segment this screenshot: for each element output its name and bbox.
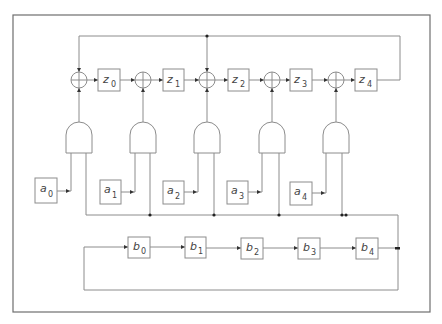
main-row-wires (87, 78, 355, 82)
a-input-4: a 4 (290, 182, 312, 205)
svg-text:3: 3 (302, 80, 307, 89)
svg-text:b: b (246, 241, 253, 254)
xor-gate-0 (71, 72, 87, 88)
svg-text:3: 3 (239, 192, 244, 201)
svg-text:4: 4 (302, 193, 307, 202)
svg-text:4: 4 (367, 80, 372, 89)
xor-gate-4 (328, 72, 344, 88)
a-input-3: a 3 (227, 181, 248, 204)
svg-text:z: z (358, 73, 365, 86)
xor-gate-2 (199, 72, 215, 88)
b-register-4: b 4 (356, 238, 378, 259)
svg-text:1: 1 (112, 191, 117, 200)
b-register-3: b 3 (298, 238, 320, 259)
xor-gate-1 (135, 72, 151, 88)
a-input-1: a 1 (100, 180, 121, 204)
svg-text:a: a (231, 184, 238, 197)
svg-text:2: 2 (240, 80, 245, 89)
svg-text:a: a (294, 185, 301, 198)
xor-gate-3 (264, 72, 280, 88)
svg-text:b: b (361, 241, 368, 254)
svg-text:3: 3 (311, 248, 316, 257)
svg-text:z: z (293, 73, 300, 86)
b-register-0: b 0 (128, 237, 150, 258)
svg-text:b: b (133, 240, 140, 253)
svg-text:a: a (40, 182, 47, 195)
svg-text:0: 0 (141, 247, 146, 256)
outer-frame (13, 15, 430, 312)
and-gate-3 (259, 122, 285, 153)
z-register-1: z 1 (163, 69, 184, 91)
svg-text:z: z (231, 73, 238, 86)
svg-text:2: 2 (175, 192, 180, 201)
b-register-2: b 2 (241, 238, 263, 259)
svg-text:z: z (102, 73, 109, 86)
svg-text:a: a (104, 183, 111, 196)
svg-text:1: 1 (198, 247, 203, 256)
z-register-2: z 2 (228, 69, 249, 91)
z-register-4: z 4 (355, 69, 377, 91)
svg-text:0: 0 (111, 80, 116, 89)
svg-text:b: b (303, 241, 310, 254)
svg-text:4: 4 (369, 248, 374, 257)
z-register-3: z 3 (290, 69, 312, 91)
z-register-0: z 0 (98, 69, 120, 91)
svg-text:a: a (167, 184, 174, 197)
svg-text:1: 1 (175, 80, 180, 89)
and-gate-4 (323, 122, 349, 153)
a-input-2: a 2 (163, 181, 184, 204)
and-to-xor-wires (77, 88, 338, 122)
b-register-1: b 1 (185, 237, 206, 258)
bus-wires (84, 153, 398, 290)
a-input-wires (57, 153, 326, 195)
svg-text:b: b (190, 240, 197, 253)
a-input-0: a 0 (35, 178, 57, 203)
svg-text:2: 2 (254, 248, 259, 257)
and-gate-0 (66, 122, 92, 153)
and-gate-2 (194, 122, 220, 153)
circuit-diagram: z 0 z 1 z 2 z 3 z 4 (0, 0, 442, 324)
svg-text:0: 0 (48, 190, 53, 199)
svg-text:z: z (166, 73, 173, 86)
and-gate-1 (130, 122, 156, 153)
